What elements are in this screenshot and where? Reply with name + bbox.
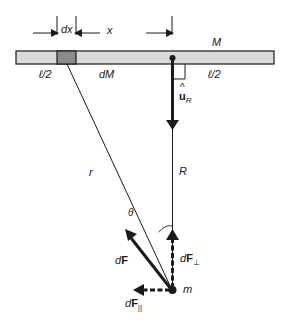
label-dF-parallel: dF||: [125, 298, 142, 309]
label-dF-F: F: [121, 254, 128, 266]
dF-parallel-arrowhead: [133, 284, 144, 296]
label-dF-perp: dF⊥: [180, 253, 200, 264]
label-dFpar-F: F: [131, 297, 138, 309]
gravitational-force-rod-diagram: dx x M ℓ/2 dM ℓ/2 ^ uR r R θ dF dF⊥ m dF…: [0, 0, 286, 326]
label-dM: dM: [99, 69, 114, 80]
mass-element-dx: [57, 51, 76, 64]
label-theta: θ: [128, 208, 133, 218]
dimension-markers: [33, 16, 172, 35]
label-m: m: [183, 284, 192, 295]
label-x: x: [107, 25, 113, 36]
label-M: M: [212, 37, 221, 48]
label-dx: dx: [61, 24, 73, 35]
theta-arc: [159, 226, 173, 232]
diagram-canvas: [0, 0, 286, 326]
label-uR-base: u: [179, 90, 186, 102]
unit-vector-arrowhead: [166, 120, 179, 130]
label-r: r: [89, 167, 93, 178]
dF-perp-arrowhead: [166, 229, 179, 240]
label-uR: uR: [179, 91, 192, 102]
label-half-length-right: ℓ/2: [208, 69, 221, 80]
label-dFperp-F: F: [186, 252, 193, 264]
label-half-length-left: ℓ/2: [39, 69, 52, 80]
rod: [16, 51, 274, 64]
label-uR-sub: R: [186, 96, 192, 105]
label-dF: dF: [115, 255, 128, 266]
label-R: R: [179, 166, 187, 177]
point-mass-m: [169, 286, 177, 294]
label-dFperp-sub: ⊥: [193, 258, 200, 267]
label-dFpar-sub: ||: [138, 303, 142, 312]
